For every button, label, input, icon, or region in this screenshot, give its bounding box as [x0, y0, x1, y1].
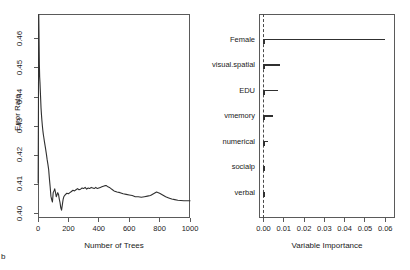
- x-tick-label: 0.06: [373, 224, 397, 233]
- x-tick-mark: [385, 218, 386, 222]
- error-rate-x-axis-title: Number of Trees: [38, 241, 190, 250]
- importance-bar-cap: [263, 115, 265, 120]
- x-tick-mark: [324, 218, 325, 222]
- importance-category-label: numerical: [199, 137, 255, 146]
- x-tick-label: 200: [54, 224, 82, 233]
- y-tick-mark: [34, 67, 38, 68]
- x-tick-label: 600: [115, 224, 143, 233]
- error-rate-plot-panel: 0.400.410.420.430.440.450.46 02004006008…: [0, 0, 205, 270]
- y-tick-mark: [34, 97, 38, 98]
- y-tick-label: 0.41: [15, 169, 24, 199]
- importance-bar-cap: [263, 141, 265, 146]
- importance-bar-cap: [263, 64, 265, 69]
- importance-bar: [263, 64, 280, 66]
- importance-bar: [263, 39, 385, 41]
- importance-category-label: visual.spatial: [199, 60, 255, 69]
- importance-category-label: vmemory: [199, 111, 255, 120]
- importance-bar-cap: [263, 166, 265, 171]
- y-tick-mark: [34, 184, 38, 185]
- variable-importance-x-axis-title: Variable Importance: [259, 241, 395, 250]
- variable-importance-plot-frame: [259, 14, 395, 218]
- x-tick-mark: [190, 218, 191, 222]
- x-tick-label: 0: [24, 224, 52, 233]
- x-tick-mark: [68, 218, 69, 222]
- x-tick-label: 800: [146, 224, 174, 233]
- y-tick-label: 0.46: [15, 23, 24, 53]
- importance-bar: [263, 90, 278, 92]
- importance-category-label: EDU: [199, 86, 255, 95]
- y-tick-label: 0.40: [15, 198, 24, 228]
- x-tick-mark: [38, 218, 39, 222]
- x-tick-mark: [98, 218, 99, 222]
- variable-importance-panel: Femalevisual.spatialEDUvmemorynumericals…: [205, 0, 410, 270]
- x-tick-label: 400: [85, 224, 113, 233]
- error-rate-y-axis-title: Error Rate: [13, 83, 22, 143]
- x-tick-mark: [364, 218, 365, 222]
- importance-bar-cap: [263, 39, 265, 44]
- x-tick-mark: [304, 218, 305, 222]
- y-tick-label: 0.42: [15, 140, 24, 170]
- y-tick-mark: [34, 155, 38, 156]
- importance-bar-cap: [263, 192, 265, 197]
- importance-category-label: Female: [199, 35, 255, 44]
- y-tick-label: 0.45: [15, 52, 24, 82]
- y-tick-mark: [34, 38, 38, 39]
- importance-category-label: socialp: [199, 162, 255, 171]
- x-tick-mark: [283, 218, 284, 222]
- x-tick-mark: [263, 218, 264, 222]
- oob-error-curve: [38, 14, 190, 218]
- x-tick-label: 1000: [176, 224, 204, 233]
- y-tick-mark: [34, 126, 38, 127]
- x-tick-mark: [344, 218, 345, 222]
- x-tick-mark: [129, 218, 130, 222]
- importance-category-label: verbal: [199, 188, 255, 197]
- panel-letter-label: b: [1, 252, 5, 261]
- x-tick-mark: [159, 218, 160, 222]
- importance-bar-cap: [263, 90, 265, 95]
- y-tick-mark: [34, 213, 38, 214]
